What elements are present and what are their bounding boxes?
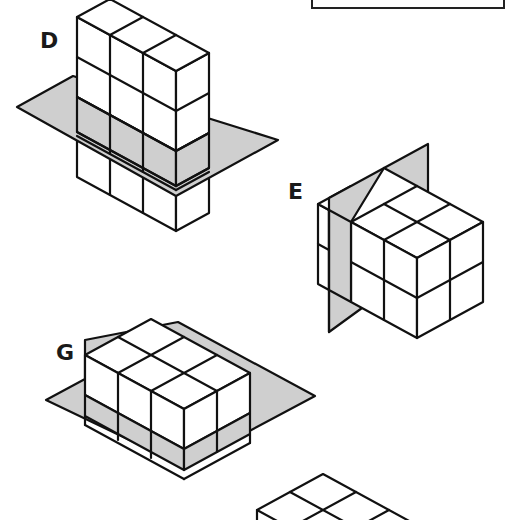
figure-partial-bottom: [257, 474, 422, 520]
figure-g-block: [85, 319, 250, 479]
figure-g: [46, 319, 315, 479]
figure-g-label: G: [56, 342, 74, 364]
figure-e: [318, 144, 483, 338]
figure-d-label: D: [40, 30, 58, 52]
figure-e-label: E: [288, 181, 303, 203]
